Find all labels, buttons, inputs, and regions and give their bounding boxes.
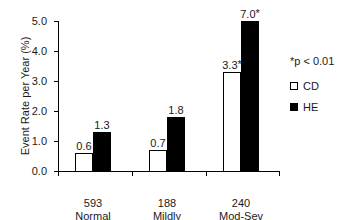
p-value-note: *p < 0.01: [290, 55, 334, 67]
bar-cd-mod-sev-abnl: [223, 72, 241, 171]
bar-he-mod-sev-abnl: [241, 21, 259, 171]
bar-cd-normal: [75, 153, 93, 171]
y-tick-label-4: 4.0: [32, 45, 47, 57]
x-category-label-normal: 593 Normal: [75, 197, 110, 220]
legend-item-he: HE: [290, 101, 334, 113]
y-tick-label-5: 5.0: [32, 15, 47, 27]
legend-item-cd: CD: [290, 80, 334, 92]
legend-swatch-filled-square-icon: [290, 103, 298, 111]
chart-legend: *p < 0.01 CD HE: [290, 55, 334, 122]
x-tick-start: [58, 171, 59, 176]
y-tick-2: 2.0: [54, 111, 58, 112]
x-tick-group-1-2: [132, 171, 133, 176]
y-axis-line: [58, 21, 59, 171]
y-tick-4: 4.0: [54, 51, 58, 52]
y-tick-label-2: 2.0: [32, 105, 47, 117]
bar-value-cd-normal: 0.6: [76, 140, 91, 152]
bar-value-he-mod-sev-abnl-number: 7.0: [240, 8, 255, 20]
x-category-name-mildly-abnl-line1: Mildly: [153, 210, 181, 220]
bar-value-cd-mod-sev-abnl: 3.3*: [222, 59, 242, 71]
y-tick-1: 1.0: [54, 141, 58, 142]
bar-value-he-normal: 1.3: [94, 119, 109, 131]
significance-star-he-mod-sev-abnl: *: [256, 7, 260, 19]
plot-area: 0.0 1.0 2.0 3.0 4.0 5.0 0.6 1.3 0.7: [58, 21, 280, 171]
x-tick-end: [279, 171, 280, 176]
x-category-name-mod-sev-abnl-line1: Mod-Sev: [219, 210, 263, 220]
bar-cd-mildly-abnl: [149, 150, 167, 171]
x-axis-line: [58, 171, 280, 172]
legend-label-he: HE: [303, 101, 318, 113]
x-category-count-mod-sev-abnl: 240: [219, 197, 263, 210]
y-tick-label-1: 1.0: [32, 135, 47, 147]
y-tick-5: 5.0: [54, 21, 58, 22]
bar-chart-figure: Event Rate per Year (%) 0.0 1.0 2.0 3.0 …: [0, 0, 360, 220]
x-category-count-normal: 593: [75, 197, 110, 210]
x-category-name-normal: Normal: [75, 210, 110, 220]
bar-he-mildly-abnl: [167, 117, 185, 171]
y-tick-3: 3.0: [54, 81, 58, 82]
legend-swatch-open-square-icon: [290, 82, 298, 90]
bar-value-he-mod-sev-abnl: 7.0*: [240, 8, 260, 20]
y-axis-title: Event Rate per Year (%): [19, 11, 31, 181]
y-tick-label-0: 0.0: [32, 165, 47, 177]
legend-label-cd: CD: [303, 80, 319, 92]
x-category-count-mildly-abnl: 188: [153, 197, 181, 210]
bar-he-normal: [93, 132, 111, 171]
x-category-label-mildly-abnl: 188 Mildly Abnl: [153, 197, 181, 220]
bar-value-cd-mildly-abnl: 0.7: [150, 137, 165, 149]
x-tick-group-2-3: [206, 171, 207, 176]
bar-value-he-mildly-abnl: 1.8: [168, 104, 183, 116]
y-tick-label-3: 3.0: [32, 75, 47, 87]
x-category-label-mod-sev-abnl: 240 Mod-Sev Abnl: [219, 197, 263, 220]
bar-value-cd-mod-sev-abnl-number: 3.3: [222, 59, 237, 71]
